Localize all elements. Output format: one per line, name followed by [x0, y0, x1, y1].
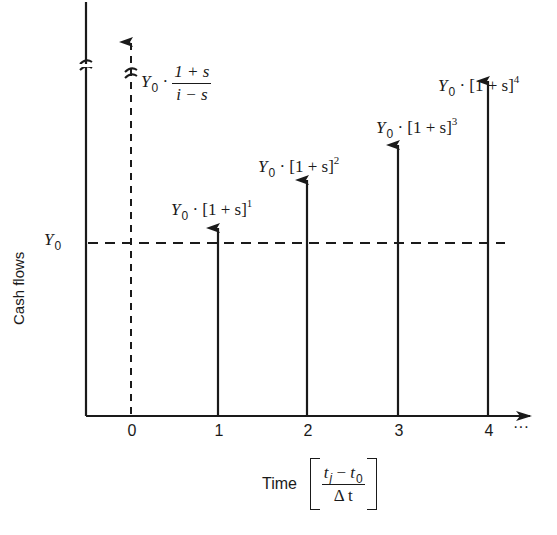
x-tick-0: 0	[128, 422, 137, 440]
fraction: 1 + s i − s	[172, 62, 211, 105]
x-axis-label: Time tj − t0 Δ t	[262, 458, 377, 510]
x-tick-2: 2	[304, 422, 313, 440]
label-t0: Y0 · 1 + s i − s	[141, 62, 211, 105]
x-tick-1: 1	[215, 422, 224, 440]
x-tick-4: 4	[485, 422, 494, 440]
right-bracket	[367, 458, 377, 510]
x-tick-3: 3	[395, 422, 404, 440]
y0-axis-label: Y0	[44, 230, 61, 250]
label-t3: Y0 · [1 + s]3	[376, 118, 457, 138]
label-t4: Y0 · [1 + s]4	[438, 76, 519, 96]
y-axis-label: Cash flows	[10, 252, 27, 325]
left-bracket	[310, 458, 320, 510]
time-fraction: tj − t0 Δ t	[322, 463, 365, 506]
x-continuation: ···	[513, 418, 529, 436]
label-t1: Y0 · [1 + s]1	[171, 200, 252, 220]
label-t2: Y0 · [1 + s]2	[258, 157, 339, 177]
